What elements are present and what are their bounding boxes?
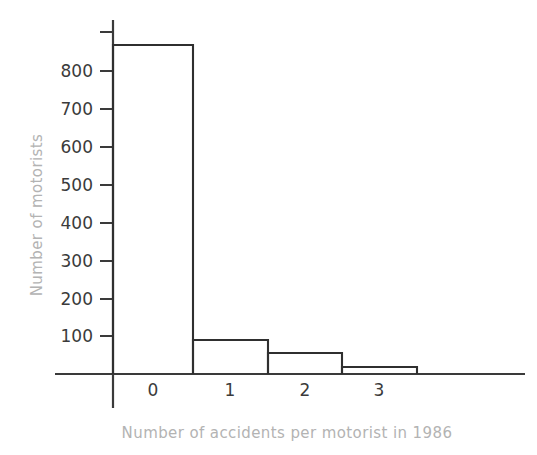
y-tick-label-200: 200 (61, 289, 93, 309)
bar-category-2 (268, 353, 342, 374)
axes-group (55, 20, 525, 408)
bar-category-1 (193, 340, 268, 374)
x-tick-label-3: 3 (374, 380, 385, 400)
y-tick-labels: 800 700 600 500 400 300 200 100 (61, 61, 93, 346)
y-tick-label-800: 800 (61, 61, 93, 81)
x-tick-label-2: 2 (300, 380, 311, 400)
x-tick-label-0: 0 (148, 380, 159, 400)
x-tick-labels: 0 1 2 3 (148, 380, 385, 400)
y-tick-label-700: 700 (61, 99, 93, 119)
y-tick-marks (100, 32, 113, 336)
y-tick-label-300: 300 (61, 251, 93, 271)
chart-canvas: 800 700 600 500 400 300 200 100 0 1 2 (0, 0, 537, 455)
bar-category-0 (113, 45, 193, 374)
y-tick-label-100: 100 (61, 326, 93, 346)
x-tick-label-1: 1 (225, 380, 236, 400)
histogram-chart: 800 700 600 500 400 300 200 100 0 1 2 (0, 0, 537, 455)
y-tick-label-600: 600 (61, 137, 93, 157)
bars-group (113, 45, 417, 374)
x-axis-title: Number of accidents per motorist in 1986 (122, 424, 453, 442)
y-axis-title: Number of motorists (28, 134, 46, 297)
y-tick-label-500: 500 (61, 175, 93, 195)
y-tick-label-400: 400 (61, 213, 93, 233)
